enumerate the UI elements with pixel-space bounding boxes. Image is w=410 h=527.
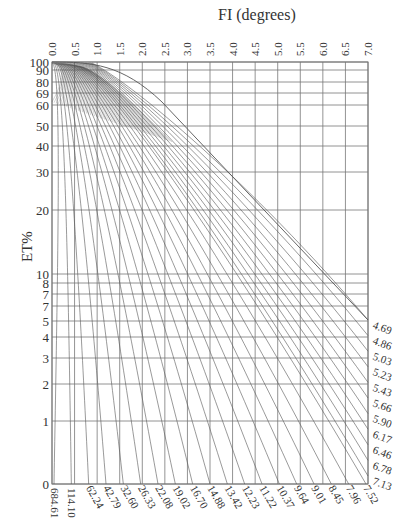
x-tick-label: 5.0 xyxy=(272,42,284,56)
curve-line xyxy=(82,63,368,429)
x-tick-label: 2.5 xyxy=(159,42,171,56)
x-tick-label: 6.5 xyxy=(339,42,351,56)
x-tick-label: 4.0 xyxy=(227,42,239,56)
x-tick-label: 3.0 xyxy=(181,42,193,56)
y-axis-title: ET% xyxy=(19,231,35,262)
y-tick-label: 40 xyxy=(36,139,49,154)
grid-lines xyxy=(52,62,368,484)
nomogram-chart: 0.00.51.01.52.02.53.03.54.04.55.05.56.06… xyxy=(0,0,410,527)
curve-label-bottom: 8.45 xyxy=(327,483,347,506)
y-tick-label: 2 xyxy=(43,377,50,392)
x-tick-label: 1.5 xyxy=(114,42,126,56)
y-tick-label: 4 xyxy=(43,330,50,345)
curve-line xyxy=(85,63,368,398)
x-tick-label: 4.5 xyxy=(249,42,261,56)
x-tick-labels: 0.00.51.01.52.02.53.03.54.04.55.05.56.06… xyxy=(46,42,374,56)
y-tick-label: 50 xyxy=(36,119,49,134)
y-tick-label: 5 xyxy=(43,314,50,329)
y-tick-label: 7 xyxy=(43,299,50,314)
x-tick-label: 5.5 xyxy=(294,42,306,56)
y-tick-label: 3 xyxy=(43,351,50,366)
x-tick-label: 0.0 xyxy=(46,42,58,56)
curve-label-bottom: 684.61 xyxy=(49,488,61,518)
y-tick-label: 60 xyxy=(36,98,49,113)
y-tick-labels: 100908069605040302010877543210 xyxy=(30,55,50,492)
curve-label-bottom: 114.10 xyxy=(66,488,78,518)
y-tick-label: 1 xyxy=(43,414,50,429)
x-tick-label: 6.0 xyxy=(317,42,329,56)
y-tick-label: 30 xyxy=(36,165,49,180)
y-tick-label: 0 xyxy=(43,477,50,492)
curve-label-bottom: 9.01 xyxy=(309,483,329,506)
y-tick-label: 20 xyxy=(36,203,49,218)
x-tick-label: 7.0 xyxy=(362,42,374,56)
x-tick-label: 0.5 xyxy=(69,42,81,56)
bottom-curve-labels: 684.61114.1062.2442.7932.6026.3322.0819.… xyxy=(49,483,381,518)
x-tick-label: 2.0 xyxy=(136,42,148,56)
x-tick-label: 3.5 xyxy=(204,42,216,56)
curve-line xyxy=(92,63,368,320)
x-tick-label: 1.0 xyxy=(91,42,103,56)
right-curve-labels: 7.136.786.466.175.905.665.435.235.034.86… xyxy=(371,319,394,493)
curve-label-bottom: 7.96 xyxy=(344,483,364,506)
